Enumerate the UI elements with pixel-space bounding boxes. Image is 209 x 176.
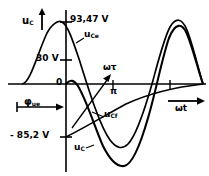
curve-uc — [66, 26, 203, 166]
tick-label-93v: 93,47 V — [70, 15, 109, 24]
curve-label-ucf: uCf — [104, 110, 117, 119]
x-axis-label: ωt — [175, 104, 187, 113]
annotation-phase-angle: φue — [24, 97, 40, 107]
leader-uc — [86, 145, 94, 148]
tick-label-minus85v: - 85,2 V — [10, 131, 49, 140]
tick-label-30v: 30 V — [36, 54, 59, 63]
leader-uce — [76, 38, 84, 43]
chart-canvas — [0, 0, 209, 176]
y-axis-arrow-icon — [39, 8, 46, 30]
chart-figure: uC 93,47 V 30 V - 85,2 V 0 π ωτ φue uCe … — [0, 0, 209, 176]
y-axis-label: uC — [22, 16, 34, 26]
curve-label-uc: uC — [74, 143, 85, 152]
tick-label-pi: π — [110, 87, 117, 96]
omega-tau-pointer-arrow-icon — [103, 74, 111, 82]
origin-label: 0 — [56, 78, 62, 87]
curve-label-uce: uCe — [84, 30, 99, 39]
annotation-omega-tau: ωτ — [103, 63, 117, 72]
